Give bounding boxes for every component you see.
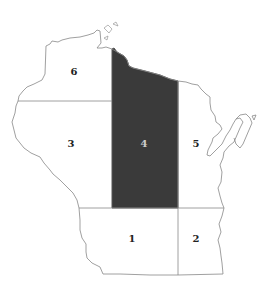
region-4[interactable] xyxy=(112,48,178,208)
region-label-5: 5 xyxy=(193,138,200,149)
region-label-4: 4 xyxy=(141,138,148,149)
region-label-2: 2 xyxy=(193,233,200,244)
region-label-3: 3 xyxy=(68,138,75,149)
region-label-6: 6 xyxy=(71,66,78,77)
island-outline xyxy=(252,115,256,120)
islands-northwest xyxy=(104,22,118,40)
state-map: 6 3 4 5 1 2 xyxy=(0,0,277,292)
region-label-1: 1 xyxy=(129,233,136,244)
